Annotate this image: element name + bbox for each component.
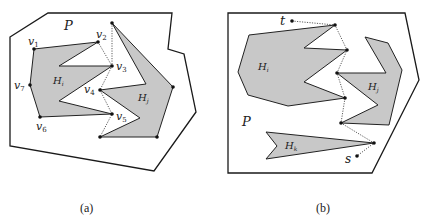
vertex-v4 <box>98 88 102 92</box>
label-s: s <box>345 152 351 166</box>
vertex-hj-top <box>110 21 114 25</box>
label-p-b: P <box>241 114 251 129</box>
vertex-v3 <box>110 64 114 68</box>
vertex-v6 <box>38 115 42 119</box>
vertex-b-5 <box>339 121 343 125</box>
vertex-v7 <box>28 83 32 87</box>
caption-a: (a) <box>80 201 93 215</box>
label-t: t <box>280 13 286 28</box>
vertex-hj-bottom-left <box>98 135 102 139</box>
vertex-b-1 <box>333 23 337 27</box>
figure-canvas: P v1 v2 v3 v4 v5 v6 v7 Hi Hj (a) t s <box>0 0 426 224</box>
vertex-b-6 <box>372 141 376 145</box>
panel-b: t s P Hi Hj Hk (b) <box>228 13 419 215</box>
panel-a: P v1 v2 v3 v4 v5 v6 v7 Hi Hj (a) <box>10 13 196 215</box>
vertex-hj-right <box>171 85 175 89</box>
vertex-hj-bottom-right <box>155 135 159 139</box>
point-t <box>290 19 294 23</box>
vertex-b-4 <box>343 96 347 100</box>
vertex-b-3 <box>335 71 339 75</box>
vertex-v5 <box>110 112 114 116</box>
point-s <box>355 154 359 158</box>
label-p-a: P <box>63 18 73 33</box>
vertex-b-2 <box>345 48 349 52</box>
caption-b: (b) <box>316 201 330 215</box>
